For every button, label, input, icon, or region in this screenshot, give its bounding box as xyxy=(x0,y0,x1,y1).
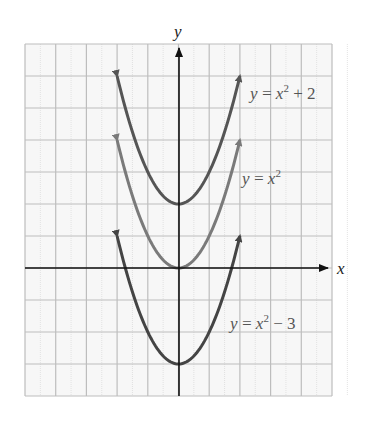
curve-label: y = x2 − 3 xyxy=(228,312,295,333)
x-axis-label: x xyxy=(336,259,345,278)
y-axis-label: y xyxy=(172,22,182,41)
curve-label: y = x2 xyxy=(240,167,281,188)
parabola-graph: x y y = x2 + 2y = x2y = x2 − 3 xyxy=(0,0,367,422)
curve-label: y = x2 + 2 xyxy=(248,82,315,103)
